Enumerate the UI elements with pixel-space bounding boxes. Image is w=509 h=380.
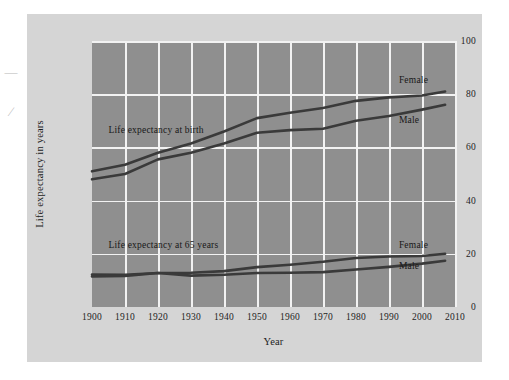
group-annotation-1: Life expectancy at 65 years <box>109 240 219 250</box>
y-tick-label: 100 <box>424 36 482 46</box>
series-label-male-3: Male <box>399 261 419 271</box>
gridline-vertical <box>455 41 457 307</box>
series-line-3 <box>92 261 445 277</box>
y-tick-label: 20 <box>424 249 482 259</box>
y-tick-label: 60 <box>424 142 482 152</box>
margin-mark-2: ∕ <box>2 92 20 132</box>
y-tick-label: 80 <box>424 89 482 99</box>
y-axis-title: Life expectancy in years <box>34 120 45 228</box>
y-tick-label: 0 <box>424 302 482 312</box>
x-tick-label: 2010 <box>433 312 477 322</box>
plot-area: Life expectancy at birthLife expectancy … <box>92 41 455 307</box>
margin-mark-1: — <box>2 52 20 92</box>
series-label-male-1: Male <box>399 115 419 125</box>
x-axis-title: Year <box>92 336 455 347</box>
page-canvas: — ∕ Life expectancy at birthLife expecta… <box>0 0 509 380</box>
group-annotation-0: Life expectancy at birth <box>109 125 204 135</box>
series-label-female-0: Female <box>399 75 428 85</box>
margin-marks: — ∕ <box>2 52 20 138</box>
y-tick-label: 40 <box>424 196 482 206</box>
life-expectancy-line-chart: Life expectancy at birthLife expectancy … <box>27 14 482 362</box>
